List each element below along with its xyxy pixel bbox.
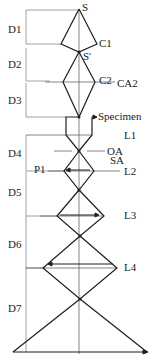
rays	[13, 9, 147, 352]
label-sa: SA	[110, 155, 124, 166]
label-d6: D6	[8, 239, 21, 250]
label-l1: L1	[124, 130, 136, 141]
label-specimen: Specimen	[98, 111, 141, 122]
label-d4: D4	[8, 148, 21, 159]
label-d1: D1	[8, 24, 21, 35]
label-l4: L4	[124, 262, 136, 273]
label-d7: D7	[8, 303, 21, 314]
label-c1: C1	[99, 38, 112, 49]
label-p1: P1	[34, 164, 46, 175]
label-d5: D5	[8, 187, 21, 198]
specimen-arrow-icon	[93, 115, 97, 119]
label-ca2: CA2	[117, 78, 138, 89]
label-l2: L2	[124, 166, 136, 177]
crossover-points	[78, 51, 82, 301]
label-d2: D2	[8, 59, 21, 70]
screen-arrow-icon	[143, 350, 148, 354]
tem-ray-diagram: S C1 S' C2 CA2 Specimen L1 OA SA P1 L2 L…	[0, 0, 152, 363]
label-source: S	[82, 2, 88, 13]
ray-diagram-svg	[0, 0, 152, 363]
label-l3: L3	[124, 210, 136, 221]
label-source-image: S'	[83, 51, 91, 62]
distance-brackets	[26, 10, 79, 352]
label-c2: C2	[99, 75, 112, 86]
label-d3: D3	[8, 95, 21, 106]
